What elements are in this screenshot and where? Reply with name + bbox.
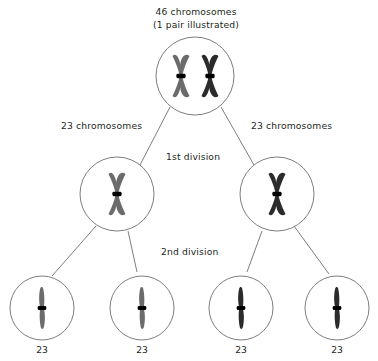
gamete-label-3: 23	[221, 344, 261, 355]
first-division-cell-right	[240, 157, 314, 231]
connector-right-to-gamete-4	[294, 226, 329, 274]
gamete-cell-1	[10, 276, 74, 340]
gamete-cell-2	[110, 276, 174, 340]
connector-left-to-gamete-1	[52, 226, 96, 276]
gamete-label-1: 23	[22, 344, 62, 355]
gamete-cell-4	[305, 276, 369, 340]
gamete-label-4: 23	[317, 344, 357, 355]
diagram-title-line-2: (1 pair illustrated)	[131, 19, 261, 31]
diagram-canvas	[0, 0, 378, 361]
connector-right-to-gamete-3	[247, 231, 262, 272]
label-first-division: 1st division	[166, 151, 220, 163]
label-left-chromosome-count: 23 chromosomes	[61, 120, 142, 132]
gamete-label-2: 23	[122, 344, 162, 355]
gamete-cell-3	[209, 276, 273, 340]
parent-cell	[156, 37, 234, 115]
label-right-chromosome-count: 23 chromosomes	[251, 120, 332, 132]
connector-left-to-gamete-2	[128, 231, 137, 272]
connector-parent-to-right	[221, 107, 254, 165]
label-second-division: 2nd division	[161, 246, 218, 258]
meiosis-diagram: 46 chromosomes (1 pair illustrated) 23 c…	[0, 0, 378, 361]
diagram-title-line-1: 46 chromosomes	[136, 6, 256, 18]
first-division-cell-left	[80, 157, 154, 231]
parent-cell-membrane	[156, 37, 234, 115]
